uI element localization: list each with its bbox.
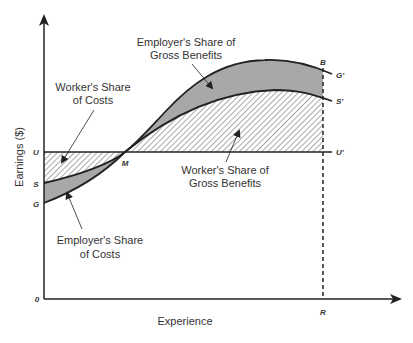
worker-benefits-region <box>125 90 323 152</box>
employer-costs-label-line1: Employer's Share <box>57 234 143 246</box>
worker-costs-label-line2: of Costs <box>73 94 114 106</box>
point-s-label: S <box>33 180 39 189</box>
employer-costs-label-line2: of Costs <box>80 248 121 260</box>
worker-benefits-label-line1: Worker's Share of <box>181 164 269 176</box>
point-r-label: R <box>320 308 326 317</box>
employer-benefits-label-line2: Gross Benefits <box>150 49 223 61</box>
point-s-prime-label: S' <box>336 97 344 106</box>
worker-costs-label-line1: Worker's Share <box>55 81 130 93</box>
point-b-label: B <box>320 58 326 67</box>
origin-label: 0 <box>35 295 40 304</box>
point-g-label: G <box>33 200 39 209</box>
employer-costs-arrow <box>67 193 82 229</box>
x-axis-label: Experience <box>157 315 212 327</box>
earnings-experience-diagram: Earnings ($) Experience 0 U S G M B R G'… <box>0 0 413 343</box>
worker-benefits-label-line2: Gross Benefits <box>189 177 262 189</box>
point-u-label: U <box>33 148 39 157</box>
point-u-prime-label: U' <box>336 148 345 157</box>
y-axis-label: Earnings ($) <box>13 127 25 187</box>
employer-benefits-label-line1: Employer's Share of <box>137 36 237 48</box>
point-g-prime-label: G' <box>336 71 345 80</box>
point-m-label: M <box>122 159 129 168</box>
